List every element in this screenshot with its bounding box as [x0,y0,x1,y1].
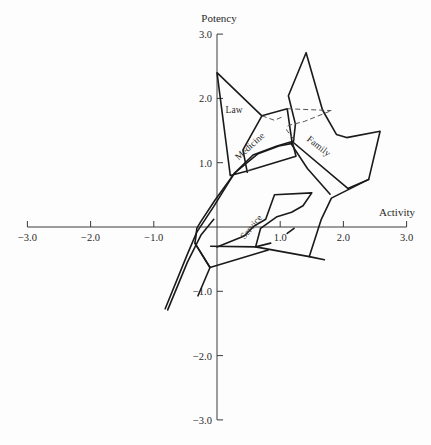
series-family-outline [288,53,380,189]
series-law-dashed [262,116,284,121]
region-label-law: Law [226,105,243,115]
x-tick-label: 2.0 [337,232,350,243]
x-tick-label: −3.0 [18,232,37,243]
y-tick-label: −2.0 [193,351,212,362]
x-tick-label: 3.0 [400,232,413,243]
plot-lines [165,53,380,310]
y-tick-label: 3.0 [199,29,212,40]
x-axis-title: Activity [379,206,416,218]
chart-canvas: −3.0−2.0−1.01.02.03.03.02.01.0−1.0−2.0−3… [0,0,431,445]
x-tick-label: −1.0 [144,232,163,243]
y-tick-label: 2.0 [199,93,212,104]
semantic-differential-chart: −3.0−2.0−1.01.02.03.03.02.01.0−1.0−2.0−3… [0,0,431,445]
y-tick-label: 1.0 [199,158,212,169]
x-tick-label: 1.0 [274,232,287,243]
axes [27,34,406,420]
series-medicine-dashed [287,109,331,111]
y-tick-label: −1.0 [193,286,212,297]
x-tick-label: −2.0 [81,232,100,243]
series-service-outline [217,193,312,247]
series-service-base [211,246,310,256]
y-axis-title: Potency [201,12,237,24]
series-medicine-outline [195,109,292,268]
series-family-lower [309,179,368,259]
series-service-tick [287,228,294,233]
y-tick-label: −3.0 [193,415,212,426]
